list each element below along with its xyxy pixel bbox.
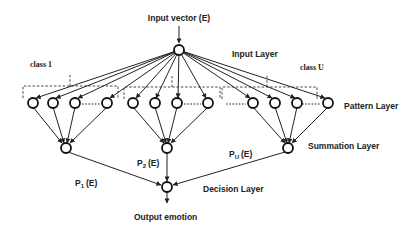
decision-layer-label: Decision Layer bbox=[203, 184, 264, 194]
pattern-layer-label: Pattern Layer bbox=[344, 101, 399, 111]
input-layer-label: Input Layer bbox=[232, 49, 279, 59]
pattern-nodes bbox=[28, 98, 333, 108]
p1-label: P1(E) bbox=[75, 178, 98, 189]
decision-node bbox=[162, 182, 172, 192]
output-emotion-label: Output emotion bbox=[134, 212, 197, 222]
summation-nodes bbox=[61, 143, 293, 153]
input-vector-label: Input vector (E) bbox=[148, 13, 211, 23]
pnn-diagram: Input vector (E) Input Layer class 1 cla… bbox=[0, 0, 414, 233]
summation-layer-label: Summation Layer bbox=[308, 141, 380, 151]
input-pattern-edges bbox=[36, 50, 325, 98]
summation-decision-edges bbox=[68, 152, 285, 185]
p2-label: P2(E) bbox=[137, 158, 160, 169]
class-u-label: class U bbox=[300, 63, 324, 72]
input-node bbox=[174, 45, 184, 55]
class-1-label: class 1 bbox=[30, 60, 52, 69]
class-group-boxes bbox=[23, 74, 317, 99]
pu-label: PU(E) bbox=[229, 149, 253, 160]
pattern-summation-edges bbox=[33, 107, 328, 143]
